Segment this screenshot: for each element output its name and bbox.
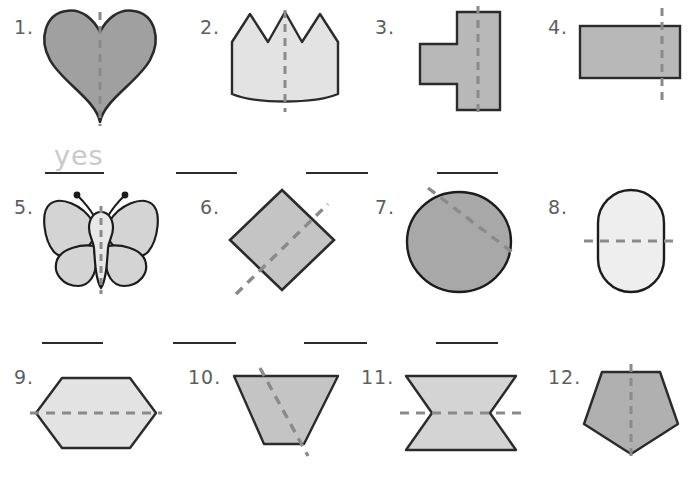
answer-line-3[interactable] [306,172,368,174]
answer-line-4[interactable] [437,172,498,174]
figure-inverted-trapezoid[interactable] [228,368,344,458]
answer-line-8[interactable] [436,342,498,344]
answer-line-5[interactable] [42,342,103,344]
answer-line-7[interactable] [304,342,367,344]
item-number-1: 1. [14,16,34,38]
figure-butterfly[interactable] [38,182,164,300]
item-number-6: 6. [200,196,220,218]
answer-line-6[interactable] [173,342,236,344]
figure-t-polygon[interactable] [412,6,520,114]
antenna-tip-left [74,192,81,199]
item-number-12: 12. [548,366,581,388]
item-number-7: 7. [375,196,395,218]
item-number-10: 10. [188,366,221,388]
trapezoid-outline [234,376,338,444]
antenna-tip-right [122,192,129,199]
figure-heart[interactable] [36,4,166,126]
t-polygon-outline [420,12,500,110]
figure-crown[interactable] [224,6,346,114]
item-number-2: 2. [200,16,220,38]
answer-text-1: yes [54,140,104,171]
figure-hexagon[interactable] [28,370,164,456]
figure-diamond[interactable] [222,182,342,300]
worksheet-page: 1. 2. 3. 4. yes 5. [0,0,689,500]
answer-line-2[interactable] [176,172,237,174]
item-number-5: 5. [14,196,34,218]
figure-circle[interactable] [402,182,524,300]
item-number-3: 3. [375,16,395,38]
circle-outline [407,192,511,292]
figure-bowtie[interactable] [398,368,528,458]
item-number-4: 4. [548,16,568,38]
figure-inverted-pentagon[interactable] [578,362,684,462]
answer-line-1[interactable] [45,172,104,174]
item-number-11: 11. [361,366,394,388]
item-number-8: 8. [548,196,568,218]
rectangle-outline [580,26,680,78]
figure-stadium[interactable] [576,182,686,300]
diamond-outline [230,190,334,290]
figure-rectangle[interactable] [576,6,686,114]
